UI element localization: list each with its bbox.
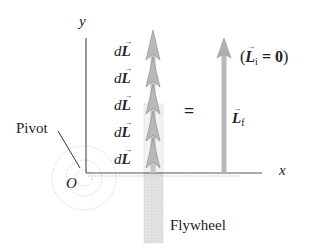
vector-arrow-icon: →	[233, 104, 241, 113]
final-l-label: Lf →	[231, 104, 245, 128]
initial-l-note: (Li = 0) →	[240, 42, 288, 67]
vector-arrow-icon: →	[124, 37, 132, 46]
vector-arrow-icon: →	[124, 145, 132, 154]
pivot-leader-line	[58, 131, 80, 168]
dl-label-2: dL→	[114, 118, 132, 140]
vector-arrow-icon: →	[247, 42, 255, 51]
pivot-label: Pivot	[16, 120, 49, 136]
angular-momentum-diagram: y x O Pivot Flywheel dL→ dL→ dL→ dL→ dL→…	[0, 0, 323, 252]
vector-arrow-icon: →	[124, 118, 132, 127]
x-axis-label: x	[278, 162, 286, 178]
dl-label-4: dL→	[114, 64, 132, 86]
dl-labels: dL→ dL→ dL→ dL→ dL→	[114, 37, 132, 167]
vector-arrow-icon: →	[124, 91, 132, 100]
origin-label: O	[66, 175, 77, 191]
pivot-rotation-circles	[52, 146, 116, 210]
dl-label-1: dL→	[114, 145, 132, 167]
dl-label-3: dL→	[114, 91, 132, 113]
vector-arrow-icon: →	[124, 64, 132, 73]
flywheel-rod-lower	[144, 173, 163, 243]
flywheel-label: Flywheel	[170, 217, 226, 233]
equals-sign: =	[184, 101, 194, 121]
y-axis-label: y	[77, 13, 86, 29]
final-l-arrow	[217, 38, 231, 173]
dl-label-5: dL→	[114, 37, 132, 59]
